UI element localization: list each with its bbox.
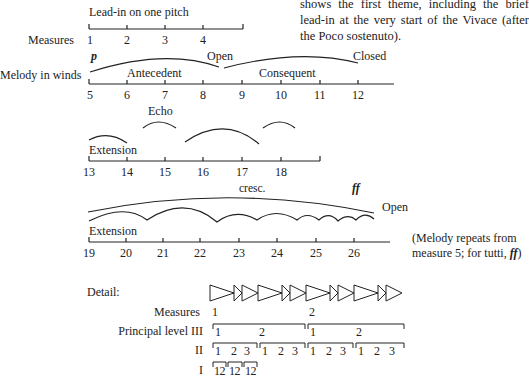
extension-label-2: Extension bbox=[89, 224, 137, 238]
level-I-num: 12 bbox=[214, 364, 225, 378]
dynamic-fortissimo: ff bbox=[352, 181, 360, 195]
detail-rhythm-triangles bbox=[210, 285, 402, 301]
tick-23: 23 bbox=[233, 246, 245, 260]
level-II-num: 3 bbox=[389, 344, 395, 358]
tick-18: 18 bbox=[275, 165, 287, 179]
tick-21: 21 bbox=[157, 246, 169, 260]
tick-13: 13 bbox=[83, 165, 95, 179]
measures-axis-label: Measures bbox=[0, 33, 74, 47]
lead-in-label: Lead-in on one pitch bbox=[89, 5, 189, 19]
detail-measure-2: 2 bbox=[309, 305, 315, 319]
tick-7: 7 bbox=[162, 88, 168, 102]
tick-17: 17 bbox=[236, 165, 248, 179]
level-III-num: 1 bbox=[310, 325, 316, 339]
tick-26: 26 bbox=[348, 246, 360, 260]
level-II-num: 2 bbox=[278, 344, 284, 358]
tick-14: 14 bbox=[121, 165, 133, 179]
level-II-num: 1 bbox=[215, 344, 221, 358]
detail-measures-label: Measures bbox=[100, 305, 200, 319]
tick-9: 9 bbox=[239, 88, 245, 102]
tick-5: 5 bbox=[87, 88, 93, 102]
tick-3: 3 bbox=[162, 33, 168, 47]
tick-8: 8 bbox=[200, 88, 206, 102]
antecedent-label: Antecedent bbox=[127, 66, 182, 80]
open-label-2: Open bbox=[382, 200, 408, 214]
detail-level-III-brackets bbox=[213, 324, 404, 329]
tick-12: 12 bbox=[352, 88, 364, 102]
dynamic-piano: p bbox=[91, 49, 97, 63]
extension-label-1: Extension bbox=[89, 143, 137, 157]
repeat-note-line2: measure 5; for tutti, ff) bbox=[412, 246, 521, 260]
tick-4: 4 bbox=[200, 33, 206, 47]
repeat-note-line1: (Melody repeats from bbox=[412, 231, 517, 245]
open-label: Open bbox=[207, 49, 233, 63]
level-I-num: 12 bbox=[229, 364, 240, 378]
cresc-label: cresc. bbox=[239, 181, 266, 195]
level-II-num: 2 bbox=[326, 344, 332, 358]
tick-22: 22 bbox=[194, 246, 206, 260]
level-II-label: II bbox=[160, 343, 203, 357]
level-II-num: 2 bbox=[231, 344, 237, 358]
tick-11: 11 bbox=[314, 88, 326, 102]
level-III-num: 2 bbox=[356, 325, 362, 339]
level-II-num: 3 bbox=[340, 344, 346, 358]
tick-15: 15 bbox=[159, 165, 171, 179]
level-III-label: Principal level III bbox=[60, 324, 203, 338]
tick-16: 16 bbox=[197, 165, 209, 179]
melody-axis-label: Melody in winds bbox=[0, 68, 81, 82]
closed-label: Closed bbox=[353, 49, 386, 63]
tick-25: 25 bbox=[310, 246, 322, 260]
level-I-num: 12 bbox=[245, 364, 256, 378]
tick-24: 24 bbox=[271, 246, 283, 260]
level-II-num: 1 bbox=[310, 344, 316, 358]
level-II-num: 1 bbox=[262, 344, 268, 358]
echo-label: Echo bbox=[148, 104, 173, 118]
consequent-label: Consequent bbox=[259, 66, 316, 80]
tick-1: 1 bbox=[87, 33, 93, 47]
level-I-label: I bbox=[160, 363, 203, 377]
tick-20: 20 bbox=[120, 246, 132, 260]
level-II-num: 2 bbox=[374, 344, 380, 358]
tick-2: 2 bbox=[124, 33, 130, 47]
detail-measure-1: 1 bbox=[212, 305, 218, 319]
row1-timeline bbox=[89, 24, 243, 29]
level-III-num: 2 bbox=[259, 325, 265, 339]
tick-10: 10 bbox=[275, 88, 287, 102]
level-II-num: 3 bbox=[292, 344, 298, 358]
level-III-num: 1 bbox=[215, 325, 221, 339]
level-II-num: 3 bbox=[244, 344, 250, 358]
detail-title: Detail: bbox=[87, 285, 120, 299]
tick-19: 19 bbox=[83, 246, 95, 260]
tick-6: 6 bbox=[124, 88, 130, 102]
level-II-num: 1 bbox=[358, 344, 364, 358]
